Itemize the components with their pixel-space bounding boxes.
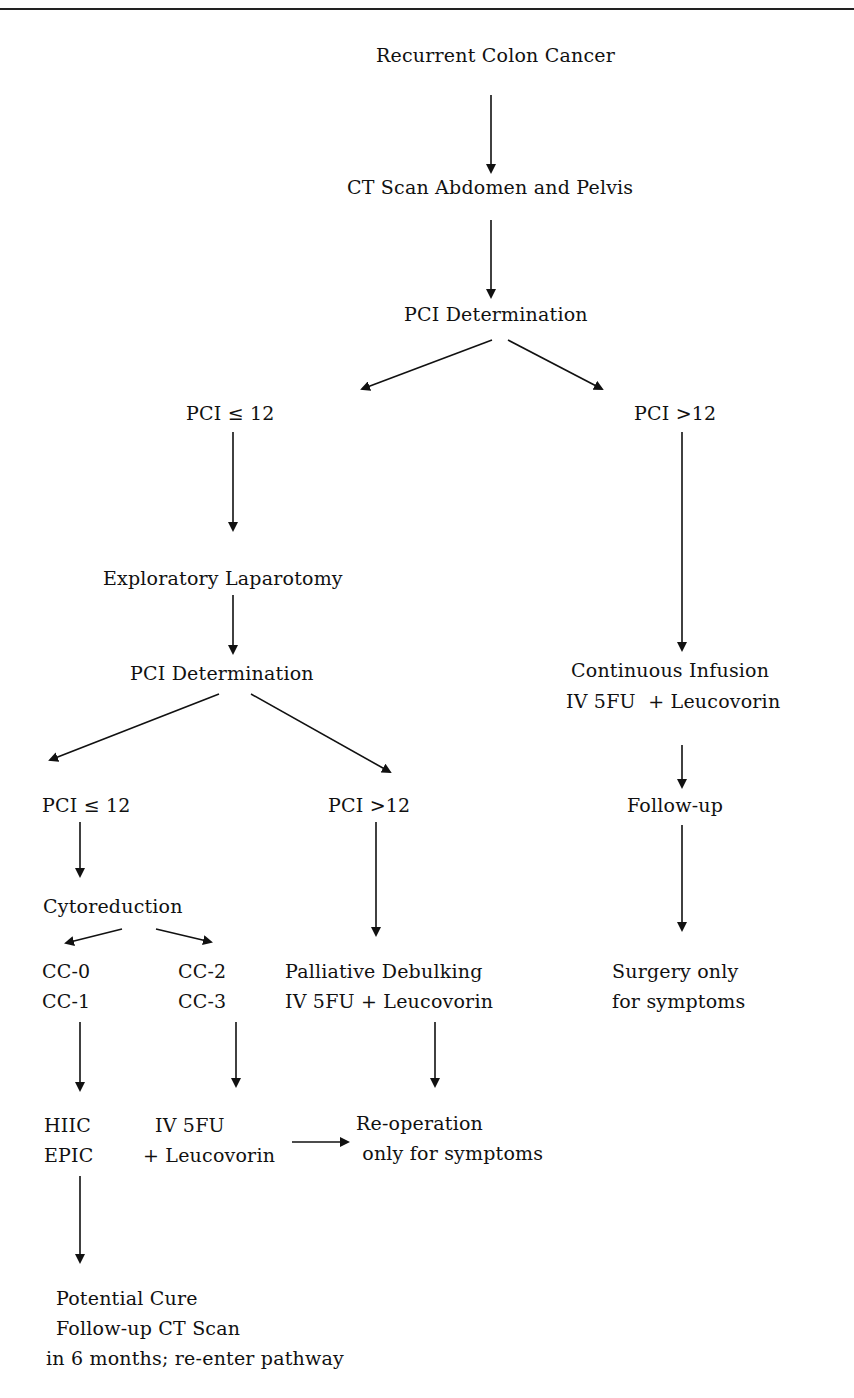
node-cc-0: CC-0 bbox=[42, 958, 90, 985]
node-re-enter-pathway: in 6 months; re-enter pathway bbox=[46, 1345, 344, 1372]
node-leucovorin-3: + Leucovorin bbox=[143, 1142, 275, 1169]
node-pci-determination-1: PCI Determination bbox=[404, 301, 588, 328]
node-cc-2: CC-2 bbox=[178, 958, 226, 985]
node-re-operation: Re-operation bbox=[356, 1110, 483, 1137]
node-follow-up-ct: Follow-up CT Scan bbox=[56, 1315, 240, 1342]
node-recurrent-colon-cancer: Recurrent Colon Cancer bbox=[376, 42, 615, 69]
node-pci-gt-12-2: PCI >12 bbox=[328, 792, 410, 819]
node-follow-up: Follow-up bbox=[627, 792, 723, 819]
node-hiic: HIIC bbox=[44, 1112, 91, 1139]
node-exploratory-laparotomy: Exploratory Laparotomy bbox=[103, 565, 343, 592]
node-pci-le-12-1: PCI ≤ 12 bbox=[186, 400, 275, 427]
node-potential-cure: Potential Cure bbox=[56, 1285, 198, 1312]
node-for-symptoms: for symptoms bbox=[612, 988, 746, 1015]
node-epic: EPIC bbox=[44, 1142, 94, 1169]
node-iv-5fu-leucovorin-2: IV 5FU + Leucovorin bbox=[285, 988, 493, 1015]
node-pci-gt-12-1: PCI >12 bbox=[634, 400, 716, 427]
node-iv-5fu-3: IV 5FU bbox=[155, 1112, 225, 1139]
node-ct-scan: CT Scan Abdomen and Pelvis bbox=[347, 174, 633, 201]
node-pci-le-12-2: PCI ≤ 12 bbox=[42, 792, 131, 819]
node-iv-5fu-leucovorin-1: IV 5FU + Leucovorin bbox=[566, 688, 780, 715]
node-cc-3: CC-3 bbox=[178, 988, 226, 1015]
node-cc-1: CC-1 bbox=[42, 988, 90, 1015]
node-palliative-debulking: Palliative Debulking bbox=[285, 958, 483, 985]
node-cytoreduction: Cytoreduction bbox=[43, 893, 183, 920]
node-surgery-only: Surgery only bbox=[612, 958, 739, 985]
node-continuous-infusion: Continuous Infusion bbox=[571, 657, 769, 684]
node-only-for-symptoms: only for symptoms bbox=[356, 1140, 543, 1167]
node-pci-determination-2: PCI Determination bbox=[130, 660, 314, 687]
